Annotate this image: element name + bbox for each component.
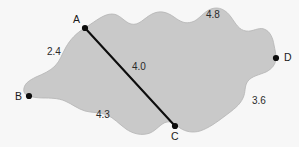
vertex-dot-d [273,55,279,61]
point-label-a: A [73,14,80,25]
point-label-c: C [171,131,179,142]
distance-label-dc: 3.6 [252,96,266,106]
distance-label-chord-ac: 4.0 [132,62,146,72]
vertex-dot-b [26,93,32,99]
geometry-figure: A B C D 2.4 4.8 3.6 4.3 4.0 [0,0,299,147]
figure-canvas [0,0,299,147]
point-label-b: B [15,91,22,102]
shaded-region-shape [24,8,276,134]
distance-label-cb: 4.3 [96,110,110,120]
vertex-dot-a [82,25,88,31]
vertex-dot-c [172,123,178,129]
distance-label-ab: 2.4 [47,47,61,57]
distance-label-ad: 4.8 [206,10,220,20]
point-label-d: D [284,52,292,63]
